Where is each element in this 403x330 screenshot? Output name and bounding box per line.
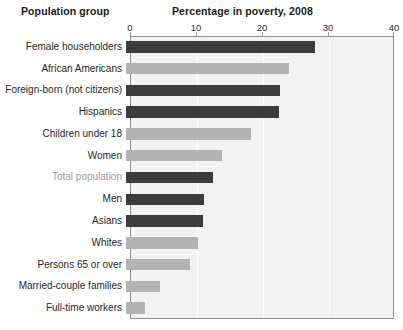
population-group-column-header: Population group xyxy=(21,5,110,17)
bar xyxy=(126,237,198,249)
chart-title: Percentage in poverty, 2008 xyxy=(172,5,313,17)
bar-track xyxy=(126,80,391,102)
bar xyxy=(126,194,204,206)
category-label: Persons 65 or over xyxy=(0,260,126,270)
bar-track xyxy=(126,101,391,123)
chart-row: Children under 18 xyxy=(0,123,403,145)
bar xyxy=(126,259,190,271)
bar-track xyxy=(126,58,391,80)
bar-track xyxy=(126,167,391,189)
category-label: Whites xyxy=(0,238,126,248)
bar-track xyxy=(126,145,391,167)
category-label: Women xyxy=(0,151,126,161)
bar xyxy=(126,63,289,75)
category-label: Children under 18 xyxy=(0,129,126,139)
bar xyxy=(126,128,251,140)
bar xyxy=(126,302,145,314)
bar-track xyxy=(126,275,391,297)
bar-track xyxy=(126,297,391,319)
chart-row: Hispanics xyxy=(0,101,403,123)
chart-row: Asians xyxy=(0,210,403,232)
chart-row: Full-time workers xyxy=(0,297,403,319)
bar-track xyxy=(126,254,391,276)
bar xyxy=(126,106,279,118)
bar xyxy=(126,215,203,227)
chart-row: Foreign-born (not citizens) xyxy=(0,80,403,102)
bar-track xyxy=(126,210,391,232)
bar xyxy=(126,41,315,53)
category-label: Men xyxy=(0,194,126,204)
category-label: Full-time workers xyxy=(0,303,126,313)
category-label: Foreign-born (not citizens) xyxy=(0,85,126,95)
chart-row: African Americans xyxy=(0,58,403,80)
chart-row: Women xyxy=(0,145,403,167)
category-label: Total population xyxy=(0,172,126,182)
bar-track xyxy=(126,123,391,145)
category-label: Hispanics xyxy=(0,107,126,117)
chart-row: Men xyxy=(0,188,403,210)
bar xyxy=(126,150,222,162)
chart-row: Female householders xyxy=(0,36,403,58)
x-axis-tick-label: 40 xyxy=(389,22,400,33)
bar xyxy=(126,85,280,97)
poverty-bar-chart: Population group Percentage in poverty, … xyxy=(0,0,403,330)
chart-row: Persons 65 or over xyxy=(0,254,403,276)
bar-track xyxy=(126,232,391,254)
x-axis: 010203040 xyxy=(130,22,394,36)
bar xyxy=(126,172,213,184)
category-label: Female householders xyxy=(0,42,126,52)
bar-track xyxy=(126,36,391,58)
category-label: African Americans xyxy=(0,64,126,74)
bar xyxy=(126,281,160,293)
bar-rows: Female householdersAfrican AmericansFore… xyxy=(0,36,403,319)
chart-row: Whites xyxy=(0,232,403,254)
chart-row: Married-couple families xyxy=(0,275,403,297)
chart-row: Total population xyxy=(0,167,403,189)
bar-track xyxy=(126,188,391,210)
category-label: Married-couple families xyxy=(0,281,126,291)
category-label: Asians xyxy=(0,216,126,226)
